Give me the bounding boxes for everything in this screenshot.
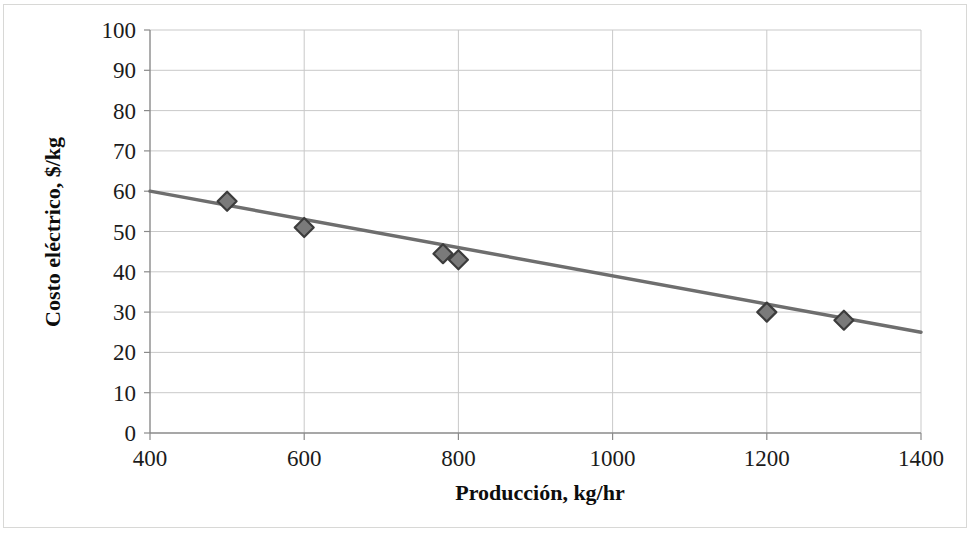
y-tick-label: 20 — [113, 340, 136, 365]
x-tick-label: 400 — [133, 446, 168, 471]
y-tick-marks — [144, 30, 150, 433]
y-tick-label: 30 — [113, 300, 136, 325]
x-tick-labels: 400600800100012001400 — [133, 446, 944, 471]
chart-page: 0102030405060708090100 40060080010001200… — [0, 0, 973, 533]
y-tick-label: 60 — [113, 179, 136, 204]
x-tick-label: 1200 — [744, 446, 790, 471]
x-tick-label: 800 — [441, 446, 476, 471]
y-tick-label: 90 — [113, 58, 136, 83]
chart-canvas: 0102030405060708090100 40060080010001200… — [0, 0, 973, 533]
y-tick-label: 70 — [113, 139, 136, 164]
y-tick-label: 10 — [113, 381, 136, 406]
x-tick-label: 1000 — [590, 446, 636, 471]
x-tick-label: 1400 — [898, 446, 944, 471]
scatter-chart: 0102030405060708090100 40060080010001200… — [0, 0, 973, 533]
x-tick-label: 600 — [287, 446, 322, 471]
y-tick-label: 100 — [102, 18, 137, 43]
y-tick-label: 80 — [113, 99, 136, 124]
x-axis-title: Producción, kg/hr — [455, 480, 625, 505]
y-tick-label: 40 — [113, 260, 136, 285]
y-tick-label: 0 — [125, 421, 137, 446]
y-tick-label: 50 — [113, 220, 136, 245]
y-axis-title: Costo eléctrico, $/kg — [40, 137, 65, 327]
x-tick-marks — [150, 433, 921, 440]
y-tick-labels: 0102030405060708090100 — [102, 18, 137, 446]
